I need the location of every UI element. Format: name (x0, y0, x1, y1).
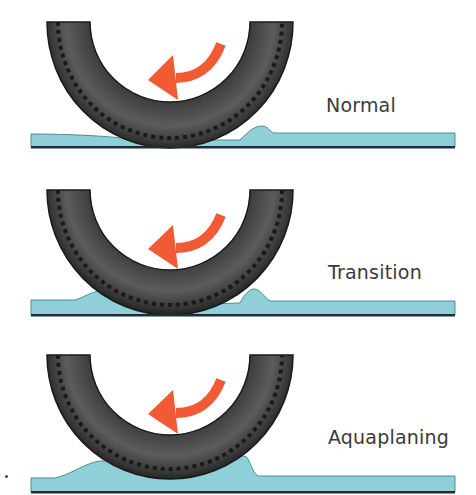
stage-label-transition: Transition (328, 261, 422, 283)
water-film (31, 456, 455, 492)
panel-aquaplaning: Aquaplaning (0, 330, 476, 490)
stray-dot (5, 475, 8, 478)
tire-diagram-transition (0, 165, 476, 325)
panel-normal: Normal (0, 0, 476, 160)
tire-diagram-aquaplaning (0, 330, 476, 495)
tire-diagram-normal (0, 0, 476, 160)
stage-label-normal: Normal (326, 94, 396, 116)
water-film (31, 126, 455, 147)
stage-label-aquaplaning: Aquaplaning (328, 426, 449, 448)
road-line (31, 146, 455, 149)
panel-transition: Transition (0, 165, 476, 325)
water-film (31, 289, 455, 315)
road-line (31, 314, 455, 317)
road-line (31, 491, 455, 494)
